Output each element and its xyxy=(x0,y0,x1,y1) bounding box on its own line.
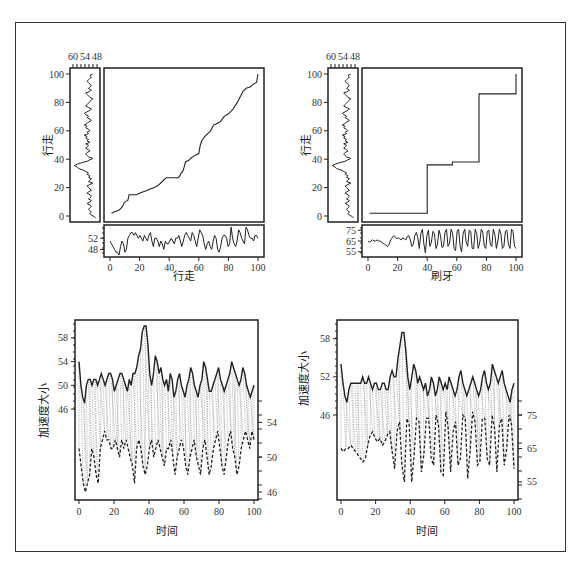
warp-link xyxy=(215,379,218,431)
warp-link xyxy=(105,385,109,439)
x-tick-label: 60 xyxy=(452,262,462,273)
series-top xyxy=(341,332,514,402)
warp-link xyxy=(120,373,122,439)
y-tick-label: 65 xyxy=(346,236,356,247)
bottom-left-xlabel: 时间 xyxy=(156,525,178,537)
chart-top-right: 020406080100605448556575020406080100 xyxy=(307,51,524,273)
right-tick-label: 55 xyxy=(527,476,537,487)
right-tick-label: 54 xyxy=(267,417,277,428)
bottom-left-ylabel: 加速度大小 xyxy=(37,383,50,438)
warp-link xyxy=(162,379,163,457)
warp-link xyxy=(226,385,228,439)
warp-link xyxy=(235,373,236,457)
warp-link xyxy=(467,396,470,452)
right-tick-label: 65 xyxy=(527,443,537,454)
chart-top-left: 0204060801006054484852020406080100 xyxy=(49,51,266,273)
x-tick-label: 20 xyxy=(393,262,403,273)
x-tick-label: 20 xyxy=(135,262,145,273)
warp-link xyxy=(479,396,480,462)
top-left-xlabel: 行走 xyxy=(173,270,195,282)
y-tick-label: 100 xyxy=(49,69,64,80)
warp-link xyxy=(142,332,145,475)
warp-link xyxy=(417,383,418,418)
bottom-right-ylabel: 加速度大小 xyxy=(297,351,310,406)
y-tick-label: 40 xyxy=(312,154,322,165)
warp-link xyxy=(218,368,219,432)
x-tick-label: 20 xyxy=(371,506,381,517)
series-bottom xyxy=(341,412,514,482)
left-tick-label: 58 xyxy=(320,333,330,344)
y-tick-label: 60 xyxy=(312,125,322,136)
right-tick-label: 46 xyxy=(267,487,277,498)
top-right-xlabel: 刷牙 xyxy=(431,270,453,282)
y-tick-label: 52 xyxy=(88,233,98,244)
warp-link xyxy=(211,391,215,440)
side-series xyxy=(332,74,353,218)
left-tick-label: 50 xyxy=(58,380,68,391)
warp-link xyxy=(230,373,231,431)
bottom-series xyxy=(110,227,258,255)
x-tick-label: 60 xyxy=(194,262,204,273)
alignment-path xyxy=(112,74,259,213)
x-tick-label: 0 xyxy=(339,506,344,517)
x-tick-label: 40 xyxy=(405,506,415,517)
x-tick-label: 80 xyxy=(474,506,484,517)
x-tick-label: 0 xyxy=(108,262,113,273)
x-tick-label: 40 xyxy=(144,506,154,517)
main-panel xyxy=(362,68,522,222)
x-tick-label: 100 xyxy=(509,262,524,273)
y-tick-label: 0 xyxy=(59,211,64,222)
x-tick-label: 100 xyxy=(251,262,266,273)
y-tick-label: 100 xyxy=(307,69,322,80)
chart-canvas: 0204060801006054484852020406080100 02040… xyxy=(0,0,584,568)
series-top xyxy=(79,326,254,403)
bottom-right-xlabel: 时间 xyxy=(416,525,438,537)
x-tick-label: 80 xyxy=(223,262,233,273)
warp-link xyxy=(458,377,459,465)
warp-link xyxy=(355,383,358,455)
warp-link xyxy=(357,383,361,458)
left-tick-label: 54 xyxy=(58,356,68,367)
right-tick-label: 50 xyxy=(267,452,277,463)
warp-link xyxy=(346,402,347,448)
warp-link xyxy=(496,377,499,425)
x-tick-label: 20 xyxy=(109,506,119,517)
x-tick-label: 0 xyxy=(366,262,371,273)
top-left-ylabel: 行走 xyxy=(42,134,54,156)
warp-link xyxy=(99,379,104,431)
warp-link xyxy=(365,383,366,458)
y-tick-label: 80 xyxy=(54,97,64,108)
y-tick-label: 75 xyxy=(346,225,356,236)
y-tick-label: 55 xyxy=(346,246,356,257)
y-tick-label: 20 xyxy=(312,182,322,193)
left-tick-label: 52 xyxy=(320,371,330,382)
warp-link xyxy=(100,373,101,448)
side-panel xyxy=(70,68,100,222)
warp-link xyxy=(248,391,249,448)
y-tick-label: 0 xyxy=(317,211,322,222)
alignment-path xyxy=(370,74,517,213)
x-tick-label: 100 xyxy=(507,506,522,517)
warp-link xyxy=(98,385,101,448)
warp-link xyxy=(157,362,158,440)
y-tick-label: 80 xyxy=(312,97,322,108)
warp-link xyxy=(374,383,380,438)
top-tick-label: 54 xyxy=(80,51,90,62)
warp-link xyxy=(443,390,446,412)
warp-link xyxy=(204,362,205,440)
warp-link xyxy=(133,373,137,448)
chart-bottom-left: 46505458465054020406080100 xyxy=(58,320,277,517)
warp-link xyxy=(361,383,363,462)
y-tick-label: 48 xyxy=(88,244,98,255)
warp-link xyxy=(187,385,190,457)
side-panel xyxy=(328,68,358,222)
warp-link xyxy=(394,377,395,469)
x-tick-label: 60 xyxy=(440,506,450,517)
warp-link xyxy=(396,377,399,422)
left-tick-label: 58 xyxy=(58,332,68,343)
y-tick-label: 20 xyxy=(54,182,64,193)
x-tick-label: 80 xyxy=(481,262,491,273)
side-series xyxy=(74,74,95,218)
warp-link xyxy=(367,383,368,445)
warp-link xyxy=(345,396,351,445)
